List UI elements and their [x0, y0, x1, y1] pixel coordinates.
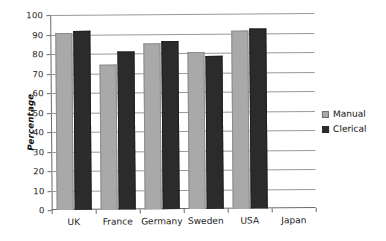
bar-germany-manual [143, 44, 161, 210]
y-axis-tick [46, 54, 50, 55]
x-axis-label-uk: UK [68, 217, 81, 227]
y-axis-tick-label: 20 [33, 166, 44, 176]
clerical-swatch-icon [322, 126, 329, 133]
gridline [50, 13, 314, 16]
y-axis-tick-label: 60 [33, 88, 44, 98]
y-axis-title: Percentage [25, 93, 35, 150]
x-axis-tick [96, 210, 97, 214]
bar-germany-clerical [161, 41, 179, 209]
x-axis-label-france: France [103, 216, 133, 226]
gridline [50, 33, 314, 36]
y-axis-tick-label: 0 [39, 205, 45, 215]
manual-swatch-icon [322, 111, 329, 118]
bar-sweden-manual [187, 52, 205, 209]
y-axis-tick [47, 171, 51, 172]
x-axis-tick [316, 208, 317, 212]
legend-label-manual: Manual [333, 110, 366, 119]
plot-area: 1009080706050403020100 UKFranceGermanySw… [50, 13, 316, 210]
legend-label-clerical: Clerical [333, 125, 367, 134]
gridlines [50, 13, 314, 15]
x-axis-tick [228, 209, 229, 213]
legend-item-clerical: Clerical [322, 122, 367, 137]
y-axis-tick-label: 80 [32, 49, 43, 59]
y-axis-tick [47, 152, 51, 153]
gridline [51, 72, 315, 75]
y-axis-tick-label: 10 [33, 186, 44, 196]
x-axis-label-japan: Japan [281, 215, 306, 225]
y-axis-tick-label: 40 [33, 127, 44, 137]
y-axis-tick [47, 132, 51, 133]
y-axis-tick-label: 50 [33, 108, 44, 118]
x-axis-tick [272, 208, 273, 212]
y-axis-tick [47, 93, 51, 94]
gridline [50, 52, 314, 55]
y-axis-tick-label: 100 [26, 10, 43, 20]
x-axis-tick [140, 209, 141, 213]
bar-france-clerical [117, 52, 135, 210]
y-axis-tick-label: 30 [33, 147, 44, 157]
bar-chart: Percentage 1009080706050403020100 UKFran… [0, 0, 386, 241]
legend-item-manual: Manual [322, 107, 367, 122]
gridline [51, 130, 315, 133]
y-axis-tick [46, 35, 50, 36]
gridline [51, 150, 315, 153]
y-axis-tick [47, 113, 51, 114]
y-axis-tick [48, 191, 52, 192]
chart-legend: Manual Clerical [322, 107, 367, 137]
bar-usa-manual [231, 30, 249, 209]
bar-uk-clerical [73, 30, 91, 210]
bar-sweden-clerical [205, 56, 223, 209]
x-axis-label-usa: USA [240, 215, 259, 225]
y-axis-tick [46, 15, 50, 16]
y-axis-tick-label: 90 [32, 30, 43, 40]
bar-usa-clerical [249, 28, 267, 209]
gridline [51, 169, 315, 172]
x-axis-label-germany: Germany [141, 216, 182, 226]
y-axis-tick [47, 74, 51, 75]
x-axis-tick [52, 210, 53, 214]
gridline [52, 189, 316, 192]
x-axis-label-sweden: Sweden [188, 216, 224, 226]
x-axis-tick [184, 209, 185, 213]
bar-france-manual [99, 64, 117, 209]
y-axis-tick-label: 70 [32, 69, 43, 79]
bar-uk-manual [55, 33, 73, 211]
gridline [51, 111, 315, 114]
gridline [51, 91, 315, 94]
